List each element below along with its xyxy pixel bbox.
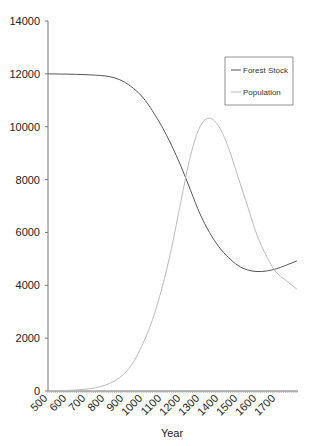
x-tick-label: 1200 bbox=[157, 392, 183, 418]
x-tick-label: 1300 bbox=[176, 392, 202, 418]
legend-label-forest-stock: Forest Stock bbox=[243, 66, 289, 75]
series-lines bbox=[48, 74, 297, 391]
y-tick-label: 8000 bbox=[16, 174, 40, 186]
legend-box bbox=[225, 57, 293, 105]
y-tick-label: 6000 bbox=[16, 226, 40, 238]
y-tick-label: 10000 bbox=[9, 121, 40, 133]
series-line-population bbox=[48, 118, 297, 391]
x-tick-label: 500 bbox=[28, 392, 49, 413]
legend: Forest Stock Population bbox=[225, 57, 293, 105]
y-tick-label: 12000 bbox=[9, 68, 40, 80]
x-tick-label: 700 bbox=[66, 392, 87, 413]
x-tick-label: 1700 bbox=[252, 392, 278, 418]
y-axis: 02000400060008000100001200014000 bbox=[9, 15, 48, 397]
x-tick-label: 1600 bbox=[233, 392, 259, 418]
x-axis-title: Year bbox=[161, 427, 184, 439]
x-tick-label: 1400 bbox=[195, 392, 221, 418]
legend-label-population: Population bbox=[243, 88, 281, 97]
x-axis: 5006007008009001000110012001300140015001… bbox=[28, 391, 298, 418]
chart: 02000400060008000100001200014000 5006007… bbox=[0, 0, 315, 446]
y-tick-label: 2000 bbox=[16, 332, 40, 344]
x-tick-label: 600 bbox=[47, 392, 68, 413]
y-tick-label: 14000 bbox=[9, 15, 40, 27]
x-tick-label: 1000 bbox=[119, 392, 145, 418]
x-tick-label: 800 bbox=[85, 392, 106, 413]
x-tick-label: 1500 bbox=[214, 392, 240, 418]
y-tick-label: 4000 bbox=[16, 279, 40, 291]
